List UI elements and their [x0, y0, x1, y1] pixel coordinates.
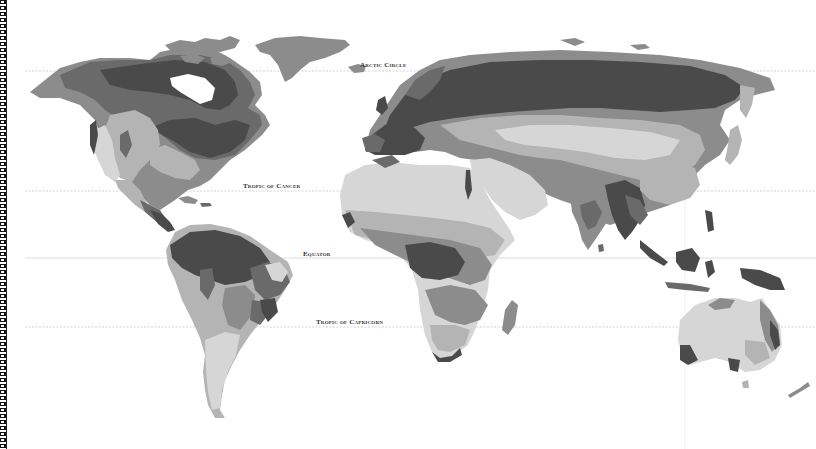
equator-label: Equator [303, 250, 331, 258]
world-map: Arctic Circle Tropic of Cancer Equator T… [0, 0, 816, 449]
tropic-of-cancer-label: Tropic of Cancer [243, 182, 300, 190]
indonesia-oceania [640, 210, 810, 398]
south-america [166, 224, 293, 418]
tropic-of-capricorn-label: Tropic of Capricorn [316, 318, 383, 326]
map-graphic [0, 0, 816, 449]
arctic-circle-label: Arctic Circle [360, 61, 406, 69]
north-america [30, 36, 366, 232]
